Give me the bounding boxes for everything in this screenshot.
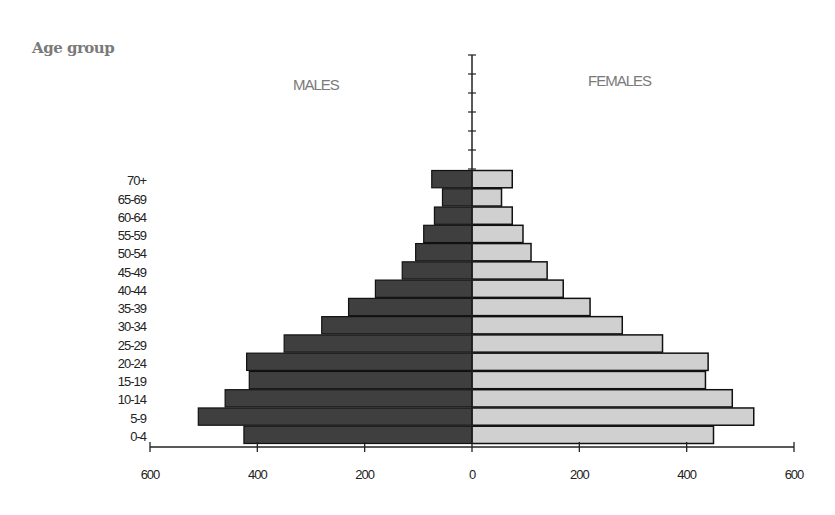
x-tick-label: 600 (141, 467, 160, 482)
female-bar-20-24 (472, 353, 708, 370)
female-bar-15-19 (472, 371, 705, 388)
category-label: 30-34 (118, 319, 147, 334)
male-bar-10-14 (225, 390, 472, 407)
female-bar-65-69 (472, 189, 502, 206)
category-labels: 0-45-910-1415-1920-2425-2930-3435-3940-4… (118, 173, 147, 444)
category-label: 40-44 (118, 283, 147, 298)
category-label: 70+ (127, 173, 146, 188)
category-label: 20-24 (118, 356, 147, 371)
x-tick-label: 400 (248, 467, 267, 482)
category-label: 60-64 (118, 210, 147, 225)
category-label: 35-39 (118, 301, 147, 316)
category-label: 5-9 (130, 411, 147, 426)
category-label: 55-59 (118, 228, 147, 243)
category-label: 50-54 (118, 246, 147, 261)
male-bar-60-64 (434, 207, 472, 224)
male-bar-15-19 (249, 371, 472, 388)
male-bar-45-49 (402, 262, 472, 279)
male-bar-50-54 (416, 244, 472, 261)
male-bar-5-9 (198, 408, 472, 425)
category-label: 15-19 (118, 374, 147, 389)
male-bar-65-69 (442, 189, 472, 206)
female-bar-5-9 (472, 408, 754, 425)
female-bar-35-39 (472, 298, 590, 315)
males-label: MALES (293, 76, 340, 93)
y-axis-title: Age group (31, 39, 114, 57)
female-bar-0-4 (472, 426, 714, 443)
category-label: 65-69 (118, 192, 147, 207)
female-bar-40-44 (472, 280, 563, 297)
male-bar-70+ (432, 171, 472, 188)
category-label: 45-49 (118, 265, 147, 280)
male-bar-35-39 (349, 298, 472, 315)
x-tick-label: 400 (677, 467, 696, 482)
male-bar-55-59 (424, 225, 472, 242)
female-bar-45-49 (472, 262, 547, 279)
male-bar-25-29 (284, 335, 472, 352)
female-bar-10-14 (472, 390, 732, 407)
category-label: 0-4 (130, 429, 147, 444)
male-bar-20-24 (247, 353, 472, 370)
female-bar-55-59 (472, 225, 523, 242)
female-bar-50-54 (472, 244, 531, 261)
female-bar-25-29 (472, 335, 663, 352)
male-bar-30-34 (322, 317, 472, 334)
female-bar-30-34 (472, 317, 622, 334)
x-tick-labels: 6004002000200400600 (141, 467, 804, 482)
population-pyramid-chart: Age group MALES FEMALES 0-45-910-1415-19… (0, 0, 835, 515)
female-bar-60-64 (472, 207, 512, 224)
category-label: 25-29 (118, 338, 147, 353)
category-label: 10-14 (118, 392, 147, 407)
x-tick-label: 200 (570, 467, 589, 482)
male-bar-0-4 (244, 426, 472, 443)
x-tick-label: 200 (355, 467, 374, 482)
x-tick-label: 600 (785, 467, 804, 482)
bars (198, 171, 753, 444)
x-tick-label: 0 (469, 467, 476, 482)
female-bar-70+ (472, 171, 512, 188)
male-bar-40-44 (375, 280, 472, 297)
females-label: FEMALES (588, 72, 652, 89)
